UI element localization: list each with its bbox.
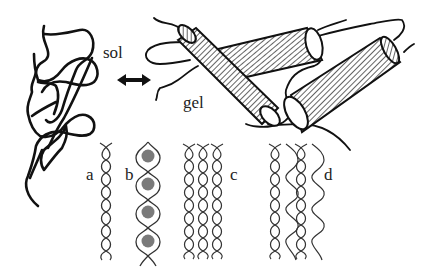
panel-b-label: b (125, 166, 134, 183)
double-arrow-icon (117, 74, 151, 86)
panel-a-label: a (86, 166, 94, 183)
panel-d-interlinked-helices (269, 144, 324, 260)
sphere (142, 206, 155, 219)
sphere (142, 235, 155, 248)
panel-a-single-helix (100, 143, 112, 260)
sphere (142, 178, 155, 191)
diagram-canvas: sol gel a b c d (0, 0, 427, 277)
gel-label: gel (183, 94, 204, 111)
panel-c-label: c (230, 166, 238, 183)
diagram-svg (0, 0, 427, 277)
panel-d-label: d (324, 166, 333, 183)
sol-label: sol (103, 44, 123, 61)
sphere (142, 150, 155, 163)
panel-c-triple-helix-lattice (183, 144, 223, 259)
panel-b-helix-with-spheres (136, 142, 160, 266)
sphere-group (142, 150, 155, 248)
